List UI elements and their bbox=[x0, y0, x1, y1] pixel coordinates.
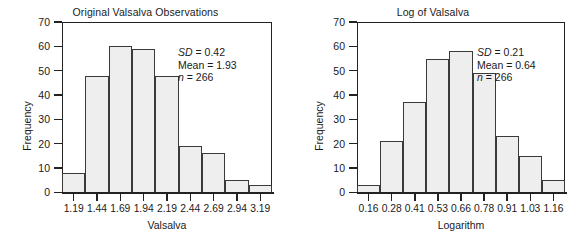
histogram-bar bbox=[155, 76, 178, 193]
y-axis-tick-label: 60 bbox=[333, 41, 349, 52]
y-axis-tick-label: 70 bbox=[333, 17, 349, 28]
x-axis-tick-label: 0.91 bbox=[496, 203, 519, 214]
x-axis-tick-label: 1.69 bbox=[109, 203, 132, 214]
x-axis-tick-mark bbox=[530, 193, 532, 201]
x-axis-tick-mark bbox=[483, 193, 485, 201]
x-axis-tick bbox=[380, 193, 403, 202]
x-axis-tick-label: 0.66 bbox=[449, 203, 472, 214]
y-axis-label: Frequency bbox=[21, 101, 33, 151]
stat-mean-label: Mean bbox=[477, 59, 503, 71]
bar-slot bbox=[380, 22, 403, 192]
bar-slot bbox=[132, 22, 155, 192]
x-axis-tick-label: 2.44 bbox=[179, 203, 202, 214]
y-axis-tick-label: 40 bbox=[333, 90, 349, 101]
stat-sd-label: SD bbox=[178, 46, 193, 58]
x-axis-tick-mark bbox=[414, 193, 416, 201]
histogram-bar bbox=[426, 59, 449, 193]
histogram-bar bbox=[249, 185, 272, 192]
y-axis-tick-label: 20 bbox=[38, 138, 54, 149]
y-axis-tick: 20 bbox=[349, 143, 357, 145]
histogram-bar bbox=[357, 185, 380, 192]
y-axis-tick: 60 bbox=[54, 46, 62, 48]
bar-slot bbox=[403, 22, 426, 192]
x-axis-tick bbox=[357, 193, 380, 202]
histogram-bar bbox=[380, 141, 403, 192]
stat-n: n = 266 bbox=[178, 71, 237, 84]
y-axis-tick: 30 bbox=[349, 119, 357, 121]
y-axis-tick-label: 10 bbox=[38, 163, 54, 174]
histogram-bar bbox=[132, 49, 155, 193]
x-axis-tick-mark bbox=[190, 193, 192, 201]
histogram-bar bbox=[449, 51, 472, 192]
x-axis-tick-mark bbox=[391, 193, 393, 201]
y-axis-tick-label: 60 bbox=[38, 41, 54, 52]
y-axis-tick-label: 70 bbox=[38, 17, 54, 28]
y-axis-tick: 40 bbox=[54, 94, 62, 96]
y-axis-tick-label: 30 bbox=[38, 114, 54, 125]
y-axis-tick: 20 bbox=[54, 143, 62, 145]
stat-n-value: = 266 bbox=[184, 71, 214, 83]
x-axis-tick bbox=[519, 193, 542, 202]
x-axis-tick-label: 0.16 bbox=[357, 203, 380, 214]
bar-slot bbox=[426, 22, 449, 192]
stat-sd: SD = 0.21 bbox=[477, 46, 536, 59]
x-axis-tick bbox=[179, 193, 202, 202]
histogram-bar bbox=[225, 180, 248, 192]
histogram-bar bbox=[85, 76, 108, 193]
stat-mean: Mean = 1.93 bbox=[178, 59, 237, 72]
stat-sd-label: SD bbox=[477, 46, 492, 58]
x-axis-tick bbox=[473, 193, 496, 202]
bar-series bbox=[62, 22, 272, 192]
x-axis-label: Valsalva bbox=[62, 219, 272, 231]
stat-sd: SD = 0.42 bbox=[178, 46, 237, 59]
y-axis-tick: 60 bbox=[349, 46, 357, 48]
x-axis-tick bbox=[542, 193, 565, 202]
histogram-bar bbox=[202, 153, 225, 192]
histogram-figure: Original Valsalva Observations Frequency… bbox=[0, 0, 583, 251]
x-axis-tick-mark bbox=[236, 193, 238, 201]
x-axis-tick bbox=[496, 193, 519, 202]
x-axis-tick bbox=[249, 193, 272, 202]
x-axis-tick-label: 3.19 bbox=[249, 203, 272, 214]
x-axis-tick-label: 1.44 bbox=[85, 203, 108, 214]
x-axis-tick-mark bbox=[96, 193, 98, 201]
x-axis-label: Logarithm bbox=[357, 219, 565, 231]
y-axis-tick: 0 bbox=[349, 192, 357, 194]
x-axis-tick-mark bbox=[368, 193, 370, 201]
y-axis-tick: 10 bbox=[54, 167, 62, 169]
x-axis-ticks bbox=[357, 193, 565, 202]
y-axis-tick-label: 50 bbox=[38, 65, 54, 76]
histogram-bar bbox=[62, 173, 85, 192]
histogram-bar bbox=[519, 156, 542, 193]
y-axis-tick-label: 0 bbox=[339, 187, 349, 198]
x-axis-ticks bbox=[62, 193, 272, 202]
stat-n: n = 266 bbox=[477, 71, 536, 84]
y-axis-tick: 50 bbox=[349, 70, 357, 72]
x-axis-tick-labels: 1.191.441.691.942.192.442.692.943.19 bbox=[62, 203, 272, 214]
stat-sd-value: = 0.21 bbox=[492, 46, 524, 58]
x-axis-tick-label: 0.78 bbox=[473, 203, 496, 214]
bar-slot bbox=[249, 22, 272, 192]
y-axis-tick-label: 20 bbox=[333, 138, 349, 149]
x-axis-tick-mark bbox=[553, 193, 555, 201]
histogram-bar bbox=[179, 146, 202, 192]
x-axis-tick-label: 1.19 bbox=[62, 203, 85, 214]
x-axis-tick bbox=[62, 193, 85, 202]
y-axis-tick: 70 bbox=[349, 21, 357, 23]
y-axis-tick: 10 bbox=[349, 167, 357, 169]
histogram-bar bbox=[473, 73, 496, 192]
y-axis-tick: 0 bbox=[54, 192, 62, 194]
x-axis-tick-label: 1.16 bbox=[542, 203, 565, 214]
y-axis-tick-label: 40 bbox=[38, 90, 54, 101]
x-axis-tick-mark bbox=[437, 193, 439, 201]
x-axis-tick bbox=[109, 193, 132, 202]
y-axis-tick: 50 bbox=[54, 70, 62, 72]
x-axis-tick-label: 0.28 bbox=[380, 203, 403, 214]
y-axis-tick-label: 0 bbox=[44, 187, 54, 198]
bar-slot bbox=[85, 22, 108, 192]
y-axis-tick: 30 bbox=[54, 119, 62, 121]
x-axis-tick-mark bbox=[260, 193, 262, 201]
stat-mean-value: = 1.93 bbox=[204, 59, 236, 71]
x-axis-tick-label: 1.03 bbox=[519, 203, 542, 214]
histogram-bar bbox=[496, 136, 519, 192]
